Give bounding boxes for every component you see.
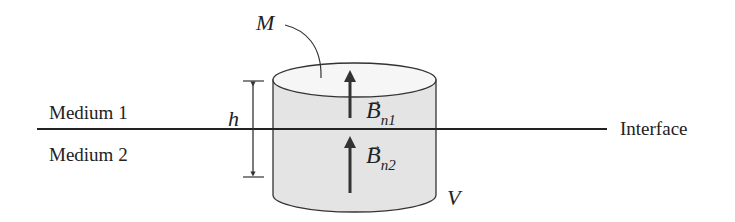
surface-m-label: M [256,12,274,34]
cylinder-body [273,80,436,212]
height-label: h [228,108,239,130]
b-n2-label: →Bn2 [366,143,396,167]
cylinder-top [273,63,436,97]
medium-1-label: Medium 1 [49,103,128,122]
interface-label: Interface [620,119,688,138]
volume-v-label: V [447,187,460,209]
medium-2-label: Medium 2 [49,145,128,164]
b-n1-label: →Bn1 [366,98,396,122]
